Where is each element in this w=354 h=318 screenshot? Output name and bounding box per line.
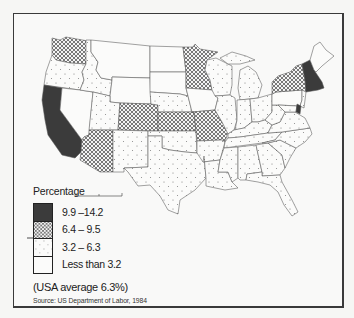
states-layer [42, 37, 334, 216]
legend-swatch-9-9-14-2 [33, 203, 53, 222]
state-washington [52, 37, 88, 64]
state-michigan-upper [220, 52, 255, 64]
state-montana [91, 40, 150, 80]
state-wyoming [110, 77, 151, 104]
legend-label-6-4-9-5: 6.4 – 9.5 [62, 223, 100, 235]
legend-label-less-than-3-2: Less than 3.2 [62, 258, 121, 270]
legend-label-3-2-6-3: 3.2 – 6.3 [62, 241, 100, 253]
state-new-mexico [113, 130, 148, 172]
legend-swatch-3-2-6-3 [33, 238, 53, 257]
state-kansas [158, 112, 196, 131]
legend-swatch-6-4-9-5 [33, 221, 53, 239]
legend-title: Percentage [33, 185, 85, 197]
state-delaware [296, 104, 301, 114]
state-north-dakota [150, 46, 186, 72]
state-pennsylvania [272, 90, 302, 106]
state-new-york [272, 64, 306, 94]
state-colorado [118, 103, 158, 131]
source-note: Source: US Department of Labor, 1984 [33, 297, 147, 304]
us-choropleth-map [0, 0, 354, 318]
state-michigan-lower [238, 66, 262, 100]
legend-label-9-9-14-2: 9.9 –14.2 [62, 206, 103, 218]
state-maine [310, 42, 334, 72]
state-florida [246, 172, 298, 216]
legend-swatch-less-than-3-2 [33, 256, 53, 274]
usa-average-note: (USA average 6.3%) [33, 281, 128, 293]
